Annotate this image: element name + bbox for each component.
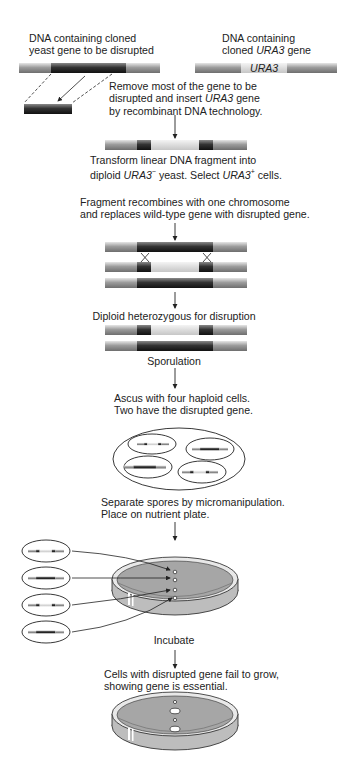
plate-spore-3-disrupted: [28, 604, 64, 607]
left-source-label: DNA containing cloned yeast gene to be d…: [29, 32, 154, 57]
spore-ovals: [22, 540, 70, 643]
crossover-marks: [141, 253, 211, 262]
heterozygous-disrupted-bar: [105, 325, 247, 335]
step-separate-spores: Separate spores by micromanipulation. Pl…: [101, 496, 285, 521]
heterozygous-wildtype-bar: [105, 341, 247, 351]
step-transform: Transform linear DNA fragment into diplo…: [90, 154, 282, 181]
chromosome-wildtype-top: [105, 242, 247, 252]
step-ascus: Ascus with four haploid cells. Two have …: [114, 392, 253, 417]
incoming-disrupted-fragment: [105, 262, 247, 272]
yeast-gene-bar: [19, 63, 160, 73]
ura3-bar-label: URA3: [250, 62, 278, 74]
plate-spore-1-disrupted: [28, 550, 64, 553]
step-incubate: Incubate: [0, 634, 348, 646]
disrupted-fragment-bar: [105, 140, 247, 150]
ascus-spore-2-wildtype: [192, 448, 228, 451]
step-result: Cells with disrupted gene fail to grow, …: [104, 668, 279, 693]
petri-dish-1: [112, 557, 238, 615]
step-diploid-heterozygous: Diploid heterozygous for disruption: [0, 310, 348, 322]
plate-spore-4-wildtype: [28, 631, 64, 634]
ascus: [113, 428, 245, 490]
step-sporulation: Sporulation: [0, 355, 348, 367]
step-recombine: Fragment recombines with one chromosome …: [80, 196, 310, 221]
plate-spore-2-wildtype: [28, 577, 64, 580]
right-source-label: DNA containing cloned URA3 gene: [222, 32, 311, 57]
ascus-spore-4-disrupted: [182, 471, 218, 474]
ascus-spore-1-disrupted: [137, 443, 169, 445]
step-remove-insert: Remove most of the gene to be disrupted …: [109, 80, 263, 117]
ascus-spore-3-wildtype: [124, 466, 166, 469]
excision-lines: [24, 74, 112, 103]
excised-fragment-bar: [24, 104, 72, 114]
chromosome-wildtype-bottom: [105, 278, 247, 288]
